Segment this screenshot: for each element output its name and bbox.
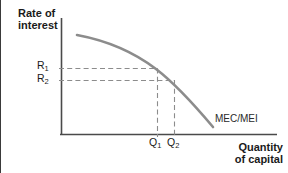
- x-axis-title-line1: Quantity: [238, 141, 283, 153]
- q1-letter: Q: [149, 136, 157, 148]
- x-axis-title: Quantityof capital: [197, 142, 283, 166]
- mec-mei-diagram: Rate ofinterest Quantityof capital MEC/M…: [0, 0, 288, 173]
- x-tick-label-q1: Q1: [149, 137, 161, 148]
- y-axis-title-line1: Rate of: [18, 7, 55, 19]
- r1-subscript: 1: [45, 64, 49, 73]
- x-axis-title-line2: of capital: [235, 153, 283, 165]
- q1-subscript: 1: [157, 141, 161, 150]
- r2-subscript: 2: [45, 77, 49, 86]
- q2-letter: Q: [167, 136, 175, 148]
- r2-letter: R: [37, 72, 45, 84]
- y-axis-title: Rate ofinterest: [18, 8, 58, 32]
- y-tick-label-r1: R1: [37, 60, 49, 71]
- r1-letter: R: [37, 59, 45, 71]
- q2-subscript: 2: [175, 141, 179, 150]
- x-tick-label-q2: Q2: [167, 137, 179, 148]
- y-tick-label-r2: R2: [37, 73, 49, 84]
- curve-label-mec-mei: MEC/MEI: [215, 114, 258, 125]
- y-axis-title-line2: interest: [18, 19, 58, 31]
